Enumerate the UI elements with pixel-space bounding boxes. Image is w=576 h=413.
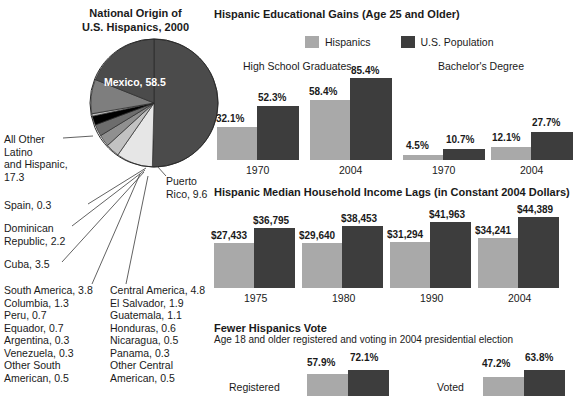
bar-group-hs-2004: 58.4% 85.4% (310, 78, 392, 160)
bar-vote-registered-us (348, 370, 389, 396)
list-item: Guatemala, 1.1 (110, 309, 205, 322)
list-item: Peru, 0.7 (4, 309, 93, 322)
bar-income-2004-us (518, 217, 559, 288)
bar-income-1990-hispanics (390, 242, 430, 288)
legend-swatch-hispanics (305, 36, 319, 48)
bar-value-hs-2004-us: 85.4% (351, 65, 379, 76)
bar-ba-1970-hispanics (403, 155, 443, 160)
bar-value-ba-1970-us: 10.7% (446, 134, 474, 145)
legend-swatch-us-population (401, 36, 415, 48)
education-subtitle-bachelors: Bachelor's Degree (438, 60, 524, 73)
bar-value-hs-1970-us: 52.3% (258, 92, 286, 103)
bar-xlabel-ba-2004: 2004 (520, 164, 543, 176)
list-item: Argentina, 0.3 (4, 334, 93, 347)
bar-xlabel-income-1975: 1975 (244, 292, 267, 304)
bar-xlabel-income-1990: 1990 (420, 292, 443, 304)
bar-value-vote-registered-us: 72.1% (350, 352, 378, 363)
bar-xlabel-income-2004: 2004 (508, 292, 531, 304)
vote-row-label-voted: Voted (437, 381, 464, 393)
bar-value-income-1975-hispanics: $27,433 (211, 230, 247, 241)
bar-ba-1970-us (443, 149, 485, 160)
list-item: American, 0.5 (4, 372, 93, 385)
bar-value-income-1975-us: $36,795 (253, 215, 289, 226)
infographic-root: National Origin of U.S. Hispanics, 2000 … (0, 0, 576, 413)
bar-hs-2004-us (350, 78, 392, 160)
bar-value-vote-voted-hispanics: 47.2% (482, 358, 510, 369)
legend-label-us-population: U.S. Population (421, 36, 494, 49)
bar-group-vote-registered: 57.9% 72.1% (307, 370, 389, 396)
bar-xlabel-hs-1970: 1970 (246, 164, 269, 176)
bar-income-1975-hispanics (214, 243, 254, 288)
list-item: South America, 3.8 (4, 284, 93, 297)
list-item: Nicaragua, 0.5 (110, 334, 205, 347)
list-item: Panama, 0.3 (110, 347, 205, 360)
pie-label-spain: Spain, 0.3 (4, 199, 51, 212)
list-item: Central America, 4.8 (110, 284, 205, 297)
list-item: American, 0.5 (110, 372, 205, 385)
vote-row-label-registered: Registered (229, 381, 280, 393)
bar-value-ba-2004-us: 27.7% (532, 117, 560, 128)
bar-value-income-2004-us: $44,389 (517, 204, 553, 215)
bar-income-1990-us (430, 222, 471, 288)
bar-value-vote-registered-hispanics: 57.9% (307, 357, 335, 368)
pie-label-cuba: Cuba, 3.5 (4, 258, 50, 271)
bar-value-income-1980-us: $38,453 (341, 213, 377, 224)
bar-group-income-1975: $27,433 $36,795 (214, 228, 295, 288)
bar-hs-2004-hispanics (310, 100, 350, 160)
list-item: Equador, 0.7 (4, 322, 93, 335)
bar-group-income-1980: $29,640 $38,453 (302, 228, 383, 288)
bar-group-income-2004: $34,241 $44,389 (478, 228, 559, 288)
legend-label-hispanics: Hispanics (325, 36, 371, 49)
bar-value-hs-2004-hispanics: 58.4% (309, 86, 337, 97)
bar-hs-1970-hispanics (217, 127, 257, 160)
bar-income-2004-hispanics (478, 238, 518, 288)
bar-group-hs-1970: 32.1% 52.3% (217, 78, 299, 160)
education-subtitle-high-school: High School Graduates (243, 60, 352, 73)
pie-legend-central-america: Central America, 4.8 El Salvador, 1.9 Gu… (110, 284, 205, 384)
bar-group-ba-2004: 12.1% 27.7% (491, 78, 573, 160)
bar-vote-registered-hispanics (307, 374, 348, 396)
bar-income-1980-us (342, 226, 383, 288)
bar-xlabel-ba-1970: 1970 (432, 164, 455, 176)
list-item: Honduras, 0.6 (110, 322, 205, 335)
bar-xlabel-hs-2004: 2004 (339, 164, 362, 176)
pie-label-dominican-republic: Dominican Republic, 2.2 (4, 222, 65, 247)
bar-group-income-1990: $31,294 $41,963 (390, 228, 471, 288)
list-item: Columbia, 1.3 (4, 297, 93, 310)
income-chart-title: Hispanic Median Household Income Lags (i… (214, 186, 570, 199)
vote-chart-subtitle: Age 18 and older registered and voting i… (214, 334, 513, 347)
pie-label-puerto-rico: Puerto Rico, 9.6 (166, 175, 207, 200)
bar-group-ba-1970: 4.5% 10.7% (403, 78, 485, 160)
bar-value-hs-1970-hispanics: 32.1% (216, 113, 244, 124)
list-item: Other South (4, 359, 93, 372)
bar-value-ba-1970-hispanics: 4.5% (406, 140, 429, 151)
list-item: Other Central (110, 359, 205, 372)
bar-group-vote-voted: 47.2% 63.8% (483, 370, 565, 396)
bar-vote-voted-hispanics (483, 377, 524, 396)
bar-hs-1970-us (257, 106, 299, 160)
bar-ba-2004-hispanics (491, 147, 531, 160)
bar-income-1975-us (254, 228, 295, 288)
pie-label-all-other: All Other Latino and Hispanic, 17.3 (4, 133, 68, 183)
education-chart-title: Hispanic Educational Gains (Age 25 and O… (214, 8, 460, 21)
bar-xlabel-income-1980: 1980 (332, 292, 355, 304)
bar-value-income-1990-hispanics: $31,294 (387, 229, 423, 240)
bar-value-income-1990-us: $41,963 (429, 209, 465, 220)
bar-value-income-2004-hispanics: $34,241 (475, 225, 511, 236)
education-legend: Hispanics U.S. Population (305, 36, 494, 49)
bar-ba-2004-us (531, 132, 573, 160)
bar-vote-voted-us (524, 370, 565, 396)
pie-legend-south-america: South America, 3.8 Columbia, 1.3 Peru, 0… (4, 284, 93, 384)
list-item: El Salvador, 1.9 (110, 297, 205, 310)
bar-income-1980-hispanics (302, 243, 342, 288)
bar-value-ba-2004-hispanics: 12.1% (492, 132, 520, 143)
bar-value-income-1980-hispanics: $29,640 (299, 230, 335, 241)
bar-value-vote-voted-us: 63.8% (525, 352, 553, 363)
list-item: Venezuela, 0.3 (4, 347, 93, 360)
